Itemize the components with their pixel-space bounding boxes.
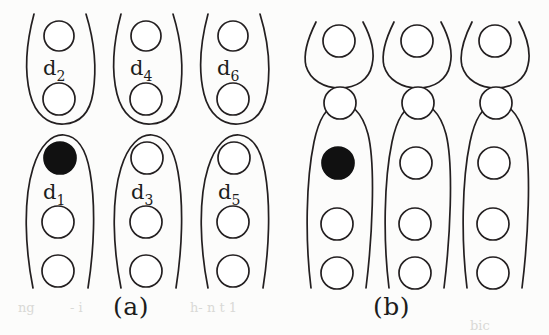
cell-d3-circle-1[interactable] [131, 142, 163, 174]
cell-b-bottom-3-circle-1[interactable] [480, 87, 512, 119]
cell-b-bottom-3-circle-4[interactable] [477, 257, 509, 289]
cell-b-bottom-2-circle-3[interactable] [399, 208, 431, 240]
label-d3-sub: 3 [144, 192, 153, 208]
label-d5-sub: 5 [231, 192, 240, 208]
label-d5-base: d [218, 180, 231, 204]
panel-b-top-row [305, 22, 529, 88]
cell-b-bottom-2-circle-1[interactable] [402, 87, 434, 119]
cell-d1-circle-1-filled[interactable] [44, 142, 76, 174]
label-d4: d4 [130, 56, 152, 84]
label-d6-sub: 6 [230, 68, 239, 84]
cell-b-bottom-1[interactable] [307, 87, 372, 289]
cell-d3[interactable] [114, 135, 181, 288]
cell-d5-circle-3[interactable] [217, 255, 249, 287]
panel-b-bottom-row [307, 87, 528, 289]
label-d1-sub: 1 [56, 192, 65, 208]
cell-b-top-3-circle-1[interactable] [479, 25, 511, 57]
cell-d2-circle-1[interactable] [44, 21, 74, 51]
label-d2: d2 [43, 56, 65, 84]
label-d5: d5 [218, 180, 240, 208]
cell-d1-circle-2[interactable] [42, 206, 74, 238]
label-d3: d3 [131, 180, 153, 208]
cell-b-top-1-circle-1[interactable] [323, 25, 355, 57]
cell-d5-circle-1[interactable] [218, 142, 250, 174]
panel-b-caption: (b) [373, 292, 410, 321]
cell-d1[interactable] [26, 135, 93, 288]
label-d4-sub: 4 [143, 68, 152, 84]
cell-d4-circle-1[interactable] [131, 21, 161, 51]
cell-b-bottom-2[interactable] [385, 87, 450, 289]
cell-b-top-2[interactable] [383, 22, 451, 88]
figure-drawing: d2 d4 d6 d1 d3 d5 [0, 0, 549, 335]
cell-b-top-2-circle-1[interactable] [401, 25, 433, 57]
cell-d2-circle-2[interactable] [43, 83, 75, 115]
panel-a-caption: (a) [113, 292, 149, 321]
cell-b-bottom-1-circle-2-filled[interactable] [322, 147, 354, 179]
cell-b-bottom-2-circle-2[interactable] [400, 147, 432, 179]
label-d1: d1 [43, 180, 65, 208]
cell-d5-circle-2[interactable] [217, 206, 249, 238]
cell-d4-circle-2[interactable] [130, 83, 162, 115]
label-d4-base: d [130, 56, 143, 80]
panel-a-labels: d2 d4 d6 d1 d3 d5 [43, 56, 240, 208]
cell-b-bottom-3-circle-3[interactable] [477, 208, 509, 240]
cell-d3-circle-3[interactable] [130, 255, 162, 287]
figure-container: d2 d4 d6 d1 d3 d5 [0, 0, 549, 335]
cell-b-bottom-2-circle-4[interactable] [399, 257, 431, 289]
cell-d6-circle-2[interactable] [217, 83, 249, 115]
label-d1-base: d [43, 180, 56, 204]
cell-d1-circle-3[interactable] [42, 255, 74, 287]
label-d6-base: d [217, 56, 230, 80]
label-d3-base: d [131, 180, 144, 204]
label-d6: d6 [217, 56, 239, 84]
label-d2-base: d [43, 56, 56, 80]
cell-d3-circle-2[interactable] [130, 206, 162, 238]
cell-d5[interactable] [201, 135, 268, 288]
cell-b-bottom-3[interactable] [463, 87, 528, 289]
cell-b-bottom-1-circle-1[interactable] [324, 87, 356, 119]
panel-a-bottom-row [26, 135, 268, 288]
cell-b-top-1[interactable] [305, 22, 373, 88]
cell-b-bottom-1-circle-4[interactable] [321, 257, 353, 289]
label-d2-sub: 2 [56, 68, 65, 84]
cell-b-bottom-1-circle-3[interactable] [321, 208, 353, 240]
cell-b-bottom-3-circle-2[interactable] [478, 147, 510, 179]
cell-d6-circle-1[interactable] [218, 21, 248, 51]
cell-b-top-3[interactable] [461, 22, 529, 88]
